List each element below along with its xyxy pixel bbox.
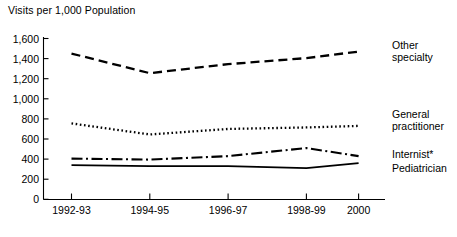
chart-series-layer (72, 52, 359, 169)
series-label-internist: Internist* (392, 148, 433, 160)
y-axis-tick-labels: 1,600 1,400 1,200 1,000 800 600 400 200 … (13, 33, 39, 206)
x-tick-label: 1998-99 (287, 204, 326, 216)
series-line-internist (72, 148, 359, 160)
series-label-pediatrician: Pediatrician (392, 162, 447, 174)
y-tick-label: 1,400 (13, 53, 39, 65)
chart-plot-area: 1,600 1,400 1,200 1,000 800 600 400 200 … (0, 0, 457, 237)
x-tick-label: 2000 (347, 204, 371, 216)
chart-container: Visits per 1,000 Population 1,600 1,400 … (0, 0, 457, 237)
x-axis-ticks (72, 194, 359, 200)
series-label-other-specialty-cont: specialty (392, 51, 434, 63)
y-tick-label: 1,000 (13, 93, 39, 105)
series-label-other-specialty: Other (392, 39, 419, 51)
y-tick-label: 1,600 (13, 33, 39, 45)
y-tick-label: 0 (33, 193, 39, 205)
x-tick-label: 1992-93 (52, 204, 91, 216)
y-tick-label: 1,200 (13, 73, 39, 85)
series-label-general-practitioner-cont: practitioner (392, 120, 444, 132)
y-axis-ticks (44, 39, 49, 200)
x-tick-label: 1996-97 (209, 204, 248, 216)
chart-series-labels: Other specialty General practitioner Int… (392, 39, 447, 174)
series-label-general-practitioner: General (392, 108, 429, 120)
x-axis-tick-labels: 1992-93 1994-95 1996-97 1998-99 2000 (52, 204, 370, 216)
x-tick-label: 1994-95 (131, 204, 170, 216)
y-tick-label: 400 (21, 153, 39, 165)
y-tick-label: 600 (21, 133, 39, 145)
series-line-other-specialty (72, 52, 359, 74)
y-tick-label: 200 (21, 173, 39, 185)
series-line-general-practitioner (72, 123, 359, 134)
series-line-pediatrician (72, 163, 359, 168)
y-tick-label: 800 (21, 113, 39, 125)
